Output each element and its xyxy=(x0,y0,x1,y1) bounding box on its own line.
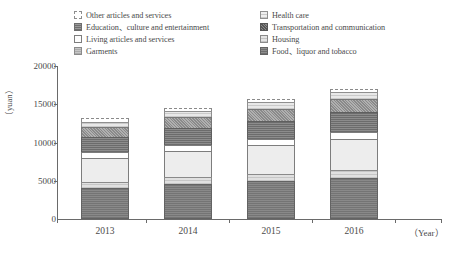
legend-item-other: Other articles and services xyxy=(74,9,246,21)
bar-segment-living[interactable] xyxy=(330,139,378,170)
x-tick-2014: 2014 xyxy=(153,226,223,236)
bar-segment-transport[interactable] xyxy=(247,109,295,121)
legend-swatch-education-icon xyxy=(74,23,82,31)
legend-item-health: Health care xyxy=(260,9,450,21)
legend-label-health: Health care xyxy=(272,11,309,20)
x-tick-2016: 2016 xyxy=(319,226,389,236)
x-tickmark-4 xyxy=(395,219,396,223)
bar-segment-food[interactable] xyxy=(330,178,378,219)
bar-segment-garments[interactable] xyxy=(330,132,378,139)
legend-swatch-housing-icon xyxy=(260,35,268,43)
bar-segment-transport[interactable] xyxy=(330,99,378,112)
bar-segment-education[interactable] xyxy=(81,137,129,152)
y-tick-10000: 10000 xyxy=(22,139,56,148)
x-tick-2015: 2015 xyxy=(236,226,306,236)
legend-label-food: Food、liquor and tobacco xyxy=(272,47,357,56)
x-axis-line xyxy=(57,219,442,220)
legend-swatch-garments-icon xyxy=(74,47,82,55)
x-axis-unit-label: （Year） xyxy=(409,226,444,239)
x-tickmark-end xyxy=(441,219,442,223)
bar-2016[interactable] xyxy=(330,89,378,219)
bar-segment-transport[interactable] xyxy=(164,117,212,128)
legend-label-living: Living articles and services xyxy=(86,35,174,44)
bar-segment-food[interactable] xyxy=(247,181,295,219)
x-tick-2013: 2013 xyxy=(70,226,140,236)
legend-label-housing: Housing xyxy=(272,35,299,44)
legend-item-living: Living articles and services xyxy=(74,33,246,45)
bar-segment-education[interactable] xyxy=(164,128,212,145)
bar-segment-education[interactable] xyxy=(247,121,295,139)
bar-2014[interactable] xyxy=(164,108,212,219)
legend-label-education: Education、culture and entertainment xyxy=(86,23,209,32)
y-tickmark-10000 xyxy=(54,143,58,144)
y-tick-5000: 5000 xyxy=(22,177,56,186)
y-tick-0: 0 xyxy=(22,215,56,224)
legend-item-food: Food、liquor and tobacco xyxy=(260,45,450,57)
x-tickmark-3 xyxy=(312,219,313,223)
bar-segment-food[interactable] xyxy=(164,184,212,219)
bar-segment-education[interactable] xyxy=(330,112,378,132)
legend-swatch-health-icon xyxy=(260,11,268,19)
y-tickmark-15000 xyxy=(54,104,58,105)
plot-area: （yuan） 20000 15000 10000 5000 0 xyxy=(0,58,454,254)
legend-swatch-transport-icon xyxy=(260,23,268,31)
chart-legend: Other articles and services Education、cu… xyxy=(74,9,448,57)
y-tick-15000: 15000 xyxy=(22,100,56,109)
bar-segment-housing[interactable] xyxy=(247,174,295,181)
y-axis-tick-labels: 20000 15000 10000 5000 0 xyxy=(16,58,56,254)
legend-item-housing: Housing xyxy=(260,33,450,45)
legend-swatch-living-icon xyxy=(74,35,82,43)
y-tickmark-20000 xyxy=(54,66,58,67)
bar-segment-transport[interactable] xyxy=(81,127,129,137)
x-tickmark-2 xyxy=(229,219,230,223)
bar-2015[interactable] xyxy=(247,99,295,219)
bar-segment-food[interactable] xyxy=(81,188,129,219)
x-tickmark-1 xyxy=(146,219,147,223)
legend-label-other: Other articles and services xyxy=(86,11,171,20)
bar-segment-living[interactable] xyxy=(81,158,129,182)
legend-label-transport: Transportation and communication xyxy=(272,23,385,32)
bar-segment-housing[interactable] xyxy=(164,177,212,184)
y-tickmark-5000 xyxy=(54,181,58,182)
bar-segment-health[interactable] xyxy=(330,92,378,99)
legend-item-transport: Transportation and communication xyxy=(260,21,450,33)
y-tick-20000: 20000 xyxy=(22,62,56,71)
legend-swatch-food-icon xyxy=(260,47,268,55)
legend-swatch-other-icon xyxy=(74,11,82,19)
legend-column-right: Health care Transportation and communica… xyxy=(260,9,450,57)
legend-label-garments: Garments xyxy=(86,47,117,56)
legend-item-garments: Garments xyxy=(74,45,246,57)
bar-segment-housing[interactable] xyxy=(330,170,378,178)
chart-figure: Other articles and services Education、cu… xyxy=(0,0,454,254)
y-axis-unit-label: （yuan） xyxy=(2,85,14,120)
legend-column-left: Other articles and services Education、cu… xyxy=(74,9,246,57)
axes: 2013 2014 2015 2016 （Year） xyxy=(57,58,449,254)
bar-segment-living[interactable] xyxy=(247,145,295,174)
bar-segment-living[interactable] xyxy=(164,151,212,177)
bar-2013[interactable] xyxy=(81,118,129,219)
legend-item-education: Education、culture and entertainment xyxy=(74,21,246,33)
